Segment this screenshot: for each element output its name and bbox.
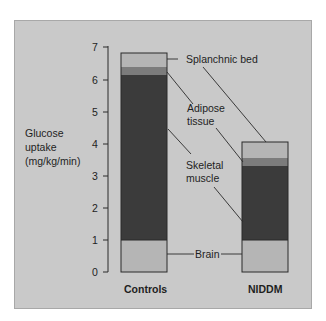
controls-splanchnic-segment bbox=[121, 53, 167, 67]
y-tick-5: 5 bbox=[92, 106, 98, 119]
controls-brain-segment bbox=[121, 240, 167, 272]
y-tick-7: 7 bbox=[92, 41, 98, 54]
label-skeletal-line1: Skeletal bbox=[186, 159, 223, 172]
controls-adipose-segment bbox=[121, 67, 167, 75]
niddm-skeletal-segment bbox=[242, 166, 288, 240]
y-axis-ticks bbox=[103, 47, 108, 272]
y-axis-label-line3: (mg/kg/min) bbox=[25, 155, 80, 168]
y-tick-4: 4 bbox=[92, 138, 98, 151]
y-tick-1: 1 bbox=[92, 234, 98, 247]
y-tick-0: 0 bbox=[92, 266, 98, 279]
y-tick-6: 6 bbox=[92, 74, 98, 87]
y-tick-2: 2 bbox=[92, 202, 98, 215]
label-brain: Brain bbox=[195, 248, 220, 261]
label-skeletal-line2: muscle bbox=[186, 172, 219, 185]
niddm-splanchnic-segment bbox=[242, 142, 288, 158]
label-splanchnic-bed: Splanchnic bed bbox=[186, 53, 258, 66]
label-adipose-line1: Adipose bbox=[187, 102, 225, 115]
category-label-controls: Controls bbox=[124, 283, 167, 296]
controls-skeletal-segment bbox=[121, 75, 167, 240]
y-axis-label-line2: uptake bbox=[25, 141, 57, 154]
y-tick-3: 3 bbox=[92, 170, 98, 183]
niddm-brain-segment bbox=[242, 240, 288, 272]
niddm-adipose-segment bbox=[242, 158, 288, 166]
y-axis-label-line1: Glucose bbox=[25, 127, 64, 140]
bar-niddm bbox=[242, 142, 288, 272]
category-label-niddm: NIDDM bbox=[248, 283, 282, 296]
label-adipose-line2: tissue bbox=[187, 115, 214, 128]
bar-controls bbox=[121, 53, 167, 272]
